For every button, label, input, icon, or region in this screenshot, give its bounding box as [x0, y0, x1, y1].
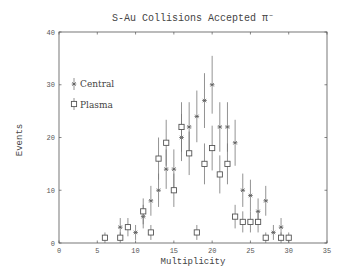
- data-point: [118, 232, 123, 243]
- x-tick-label: 25: [246, 247, 254, 255]
- chart-title: S-Au Collisions Accepted π⁻: [112, 13, 274, 24]
- data-point: [149, 186, 154, 216]
- x-tick-label: 0: [57, 247, 61, 255]
- legend-label-plasma: Plasma: [80, 100, 113, 110]
- y-axis-label: Events: [15, 124, 25, 156]
- data-point: [133, 225, 138, 240]
- scatter-chart: S-Au Collisions Accepted π⁻ 051015202530…: [0, 0, 350, 277]
- data-point: [286, 232, 291, 243]
- data-point: [164, 120, 169, 166]
- data-point: [233, 205, 238, 229]
- data-point: [210, 56, 215, 114]
- data-point: [217, 155, 222, 193]
- data-point: [255, 211, 260, 232]
- data-point: [240, 174, 245, 207]
- data-point: [171, 174, 176, 207]
- data-point: [248, 180, 253, 212]
- data-point: [233, 120, 238, 166]
- x-tick-label: 35: [323, 247, 331, 255]
- data-point: [278, 232, 283, 243]
- data-point: [141, 198, 146, 224]
- data-point: [202, 73, 207, 128]
- x-tick-label: 20: [208, 247, 216, 255]
- y-tick-label: 10: [47, 187, 55, 195]
- asterisk-marker-icon: [72, 78, 77, 90]
- data-point: [225, 143, 230, 184]
- y-tick-label: 0: [51, 240, 55, 248]
- data-point: [263, 186, 268, 216]
- x-tick-label: 5: [95, 247, 99, 255]
- plot-frame: [59, 32, 327, 243]
- x-axis-label: Multiplicity: [161, 257, 226, 267]
- data-point: [156, 138, 161, 180]
- x-tick-label: 15: [170, 247, 178, 255]
- data-point: [271, 225, 276, 240]
- legend: Central Plasma: [71, 78, 114, 110]
- data-point: [202, 143, 207, 184]
- data-point: [179, 102, 184, 151]
- x-tick-label: 10: [131, 247, 139, 255]
- data-point: [194, 225, 199, 240]
- data-point: [218, 102, 223, 151]
- y-tick-label: 20: [47, 134, 55, 142]
- data-point: [148, 225, 153, 240]
- data-point: [187, 132, 192, 175]
- data-point: [102, 232, 107, 243]
- legend-label-central: Central: [80, 79, 114, 89]
- data-point: [210, 126, 215, 171]
- y-tick-label: 40: [47, 29, 55, 37]
- data-point: [240, 211, 245, 232]
- y-tick-label: 30: [47, 81, 55, 89]
- square-marker-icon: [71, 98, 76, 110]
- x-tick-label: 30: [285, 247, 293, 255]
- data-point: [195, 91, 200, 143]
- data-series: [102, 56, 291, 243]
- data-point: [248, 211, 253, 232]
- data-point: [263, 232, 268, 243]
- data-point: [125, 218, 130, 236]
